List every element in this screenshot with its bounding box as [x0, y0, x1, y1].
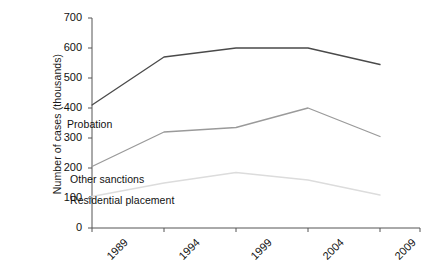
y-tick-label-600: 600	[48, 42, 82, 53]
series-label-probation: Probation	[67, 118, 112, 130]
y-tick-label-200: 200	[48, 162, 82, 173]
chart-figure: Number of cases (thousands) 700600500400…	[0, 0, 429, 271]
y-tick-label-500: 500	[48, 72, 82, 83]
y-tick-label-300: 300	[48, 132, 82, 143]
plot-area: Number of cases (thousands) 700600500400…	[0, 0, 429, 271]
series-label-residential-placement: Residential placement	[70, 194, 174, 206]
series-line-other-sanctions	[92, 108, 380, 167]
series-line-probation	[92, 48, 380, 105]
y-tick-label-700: 700	[48, 12, 82, 23]
series-label-other-sanctions: Other sanctions	[70, 173, 144, 185]
y-tick-label-0: 0	[48, 222, 82, 233]
y-tick-label-400: 400	[48, 102, 82, 113]
